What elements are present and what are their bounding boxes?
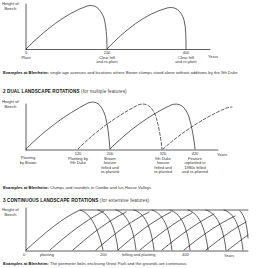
chart2-axes [26, 104, 218, 150]
chart1-axes [26, 4, 210, 50]
chart2-tick-420: 420 Feature replanted in 1980s felled an… [180, 152, 210, 175]
heading-text: 2 DUAL LANDSCAPE ROTATIONS [3, 89, 80, 94]
example-label: Examples at Blenheim: [3, 185, 49, 190]
section2-heading: 2 DUAL LANDSCAPE ROTATIONS (for multiple… [3, 89, 127, 94]
chart1-tick-200: 200 Clear fell and re-plant [94, 51, 120, 65]
tick-note: Plant [21, 56, 31, 61]
chart3-curves [26, 210, 248, 250]
heading-subtext: (for multiple features) [80, 89, 127, 94]
tick-note: and re-plant [94, 60, 120, 65]
chart3-tick-0: 0 [23, 253, 25, 258]
chart1-curves [26, 6, 186, 50]
example-label: Examples at Blenheim: [3, 70, 49, 75]
chart2-tick-200: 200 Brown feature felled and re-planted [97, 152, 123, 175]
chart2-xlabel: Years [217, 153, 227, 158]
diagram-line-art [0, 0, 258, 268]
chart3-example: Examples at Blenheim: The perimeter belt… [3, 261, 253, 266]
ylabel-line: Beech [2, 105, 19, 110]
chart3-tick-400: 400 [182, 253, 189, 258]
example-text: single age avenues and locations where B… [49, 70, 238, 75]
tick-note: by Brown [16, 161, 40, 166]
example-text: Clumps and roundels in Combe and Ice Hou… [49, 185, 151, 190]
chart1-tick-0: 0 Plant [21, 51, 31, 60]
heading-text: 3 CONTINUOUS LANDSCAPE ROTATIONS [3, 198, 98, 203]
chart3-annotation-planting: planting [40, 253, 54, 258]
chart2-tick-320: 320 9th Duke feature felled and re-plant… [150, 152, 176, 175]
tick-note: 9th Duke [64, 161, 92, 166]
section3-heading: 3 CONTINUOUS LANDSCAPE ROTATIONS (for ex… [3, 198, 149, 203]
ylabel-line: Beech [2, 7, 19, 12]
tick-note: and re-planted [180, 170, 210, 175]
chart2-tick-120: 120 Planting by 9th Duke [64, 152, 92, 166]
chart3-axes [26, 208, 248, 251]
chart2-tick-0: Planting by Brown [16, 156, 40, 165]
chart2-example: Examples at Blenheim: Clumps and roundel… [3, 185, 253, 190]
example-text: The perimeter belts enclosing Great Park… [49, 261, 187, 266]
tick-note: re-planted [97, 170, 123, 175]
chart2-curves [26, 102, 232, 149]
chart3-xlabel: Years [224, 254, 234, 259]
example-label: Examples at Blenheim: [3, 261, 49, 266]
chart3-annotation-felling: felling and planting [122, 253, 155, 258]
chart1-ylabel: Height of Beech [2, 2, 19, 12]
chart3-tick-200: 200 [100, 253, 107, 258]
heading-subtext: (for extensive features) [98, 198, 149, 203]
tick-note: re-planted [150, 170, 176, 175]
chart2-ylabel: Height of Beech [2, 100, 19, 110]
chart3-ylabel: Height of Beech [2, 208, 19, 218]
chart1-tick-400: 400 Clear fell and re-plant [173, 51, 199, 65]
ylabel-line: Beech [2, 213, 19, 218]
tick-note: and re-plant [173, 60, 199, 65]
chart1-xlabel: Years [208, 55, 218, 60]
chart1-example: Examples at Blenheim: single age avenues… [3, 70, 253, 75]
